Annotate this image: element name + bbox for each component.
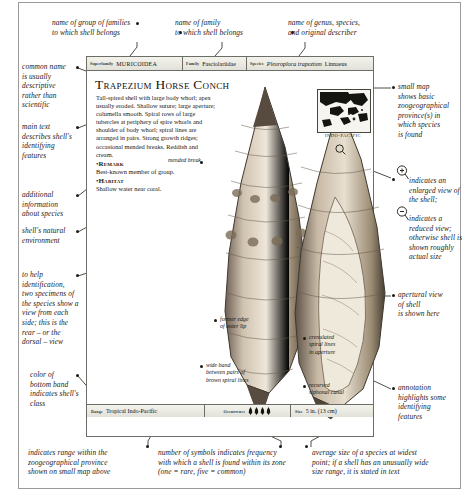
annotation-occurrence-note: number of symbols indicates frequency wi… xyxy=(158,448,286,477)
annotation-species-note: name of genus, species, and original des… xyxy=(288,18,388,37)
dot-common-name xyxy=(76,66,79,69)
shell-frequency-icon xyxy=(260,407,265,415)
superfamily-key: Superfamily xyxy=(90,61,113,66)
dot-two-specimens xyxy=(76,274,79,277)
annotation-size-note: average size of a species at widest poin… xyxy=(312,448,442,477)
taxonomy-family-cell: Family Fasciolariidae xyxy=(183,57,247,70)
habitat-section: •Habitat Shallow water near coral. xyxy=(96,177,216,193)
annotation-map-note: small map shows basic zoogeographical pr… xyxy=(398,82,466,140)
dot-additional-info xyxy=(76,194,79,197)
annotation-band-color-note: color of bottom band indicates shell's c… xyxy=(30,370,92,408)
annotation-additional-info-note: additional information about species xyxy=(22,190,84,219)
size-key: Size xyxy=(295,409,303,414)
range-cell: Range Tropical Indo-Pacific xyxy=(87,405,205,417)
superfamily-value: MURICOIDEA xyxy=(116,61,157,67)
annotation-enlarged-view-note: indicates an enlarged view of the shell; xyxy=(409,176,469,205)
family-key: Family xyxy=(186,61,199,66)
occurrence-symbols xyxy=(248,407,271,415)
dot-species xyxy=(291,31,294,34)
annotation-habitat-note: shell's natural environment xyxy=(22,226,84,245)
data-bar: Range Tropical Indo-Pacific Occurrence S… xyxy=(87,404,373,417)
figure-annotation-crenulated: crenulated spiral lines in aperture xyxy=(309,334,363,356)
card-body: Trapezium Horse Conch Tall-spired shell … xyxy=(87,71,373,417)
figure-page: name of group of families to which shell… xyxy=(0,0,469,497)
annotation-reduced-view-note: indicates a reduced view; otherwise shel… xyxy=(409,214,469,262)
dot-superfamily xyxy=(136,22,139,25)
occurrence-key: Occurrence xyxy=(224,409,246,414)
figure-annotation-siphonal-canal: recurved siphonal canal xyxy=(309,382,363,397)
annotation-family-note: name of family to which shell belongs xyxy=(175,18,257,37)
annotation-superfamily-note: name of group of families to which shell… xyxy=(52,18,144,37)
dot-habitat xyxy=(76,230,79,233)
family-value: Fasciolariidae xyxy=(202,61,236,67)
shell-frequency-icon xyxy=(266,407,271,415)
page-title: Trapezium Horse Conch xyxy=(95,77,229,93)
habitat-label: Habitat xyxy=(98,177,123,185)
distribution-map xyxy=(317,89,371,133)
figure-annotation-wide-band: wide band between pairs of brown spiral … xyxy=(206,362,268,384)
range-key: Range xyxy=(91,409,103,414)
map-province-label: INDO-PACIFIC xyxy=(315,133,371,138)
species-key: Species xyxy=(250,61,264,66)
species-binomial: Pleuroploca trapezium xyxy=(267,61,322,67)
habitat-text: Shallow water near coral. xyxy=(96,185,216,193)
annotation-two-specimens-note: to help identification, two specimens of… xyxy=(22,270,88,347)
description-column: Tall-spired shell with large body whorl;… xyxy=(96,94,216,193)
magnification-indicator-icon xyxy=(335,141,346,152)
annotation-annotation-note: annotation highlights some identifying f… xyxy=(398,383,466,421)
dot-size-note xyxy=(305,445,308,448)
taxonomy-bar: Superfamily MURICOIDEA Family Fasciolari… xyxy=(87,57,373,71)
shell-frequency-icon xyxy=(254,407,259,415)
dot-main-text xyxy=(76,126,79,129)
remark-label: Remark xyxy=(98,160,123,168)
taxonomy-species-cell: Species Pleuroploca trapezium Linnaeus xyxy=(247,57,373,70)
remark-text: Best-known member of group. xyxy=(96,168,216,176)
figure-annotation-mended-break: mended break xyxy=(145,157,201,164)
shell-frequency-icon xyxy=(248,407,253,415)
dot-map-note xyxy=(392,86,395,89)
dot-crenulated xyxy=(303,337,306,340)
range-value: Tropical Indo-Pacific xyxy=(106,408,157,414)
occurrence-cell: Occurrence xyxy=(205,405,291,417)
taxonomy-superfamily-cell: Superfamily MURICOIDEA xyxy=(87,57,183,70)
dot-band-color xyxy=(76,374,79,377)
description-text: Tall-spired shell with large body whorl;… xyxy=(96,94,216,159)
annotation-main-text-note: main text describes shell's identifying … xyxy=(22,122,84,160)
annotation-common-name-note: common name is usually descriptive rathe… xyxy=(22,62,84,110)
size-value: 5 in. (13 cm) xyxy=(306,408,337,414)
figure-annotation-outer-lip: former edge of outer lip xyxy=(220,316,276,331)
species-card: Superfamily MURICOIDEA Family Fasciolari… xyxy=(86,56,374,437)
annotation-range-note: indicates range within the zoogeographic… xyxy=(28,448,152,477)
size-cell: Size 5 in. (13 cm) xyxy=(291,405,373,417)
species-author: Linnaeus xyxy=(325,61,347,67)
dot-wide-band xyxy=(200,365,203,368)
dot-outer-lip xyxy=(214,319,217,322)
annotation-apertural-view-note: apertural view of shell is shown here xyxy=(398,290,466,319)
dot-siphonal-canal xyxy=(303,385,306,388)
dot-family xyxy=(179,31,182,34)
